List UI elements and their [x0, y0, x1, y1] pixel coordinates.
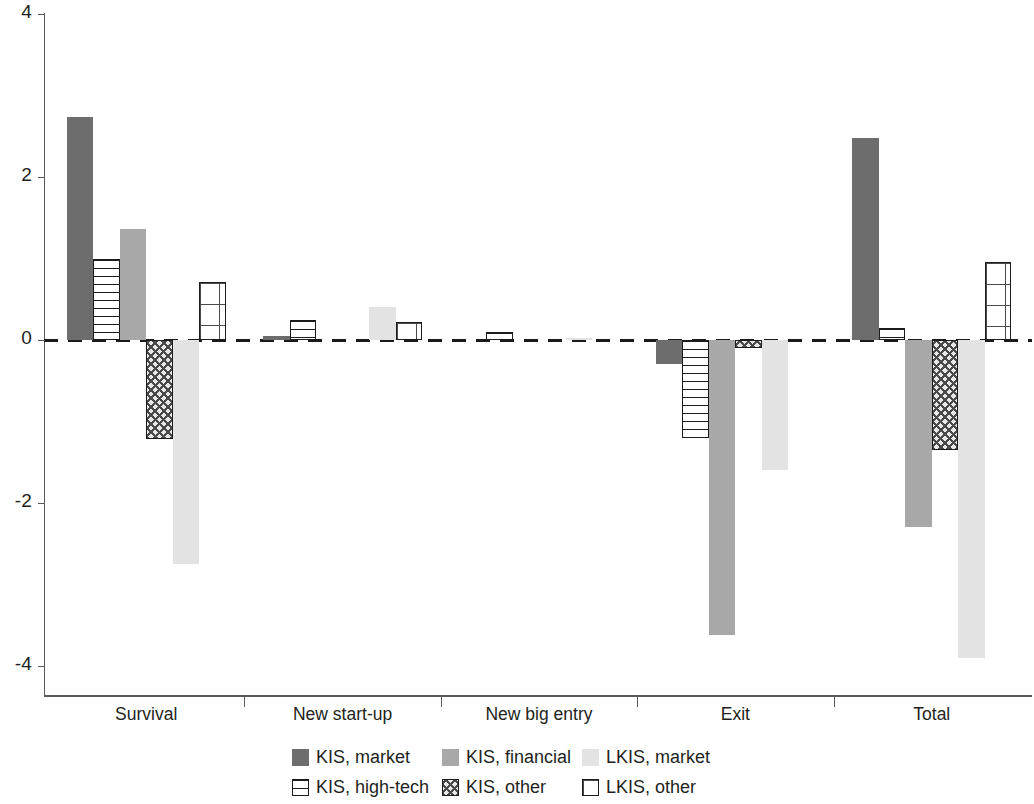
- legend-label: KIS, market: [316, 747, 410, 768]
- legend-label: LKIS, market: [606, 747, 710, 768]
- plot-area: [0, 0, 1034, 695]
- grouped-bar-chart: 420-2-4 SurvivalNew start-upNew big entr…: [0, 0, 1034, 804]
- legend-item-lkis-market[interactable]: LKIS, market: [582, 747, 742, 768]
- legend-label: KIS, other: [466, 777, 546, 798]
- bar-new-start-up-lkis-other: [396, 322, 423, 340]
- bar-survival-kis-high-tech: [93, 259, 120, 341]
- legend-swatch-icon: [292, 749, 309, 766]
- legend-item-kis-other[interactable]: KIS, other: [442, 777, 582, 798]
- legend-label: LKIS, other: [606, 777, 696, 798]
- x-category-label-exit: Exit: [637, 704, 833, 725]
- bar-total-kis-market: [852, 138, 879, 340]
- bar-total-kis-other: [932, 340, 959, 450]
- x-category-label-survival: Survival: [48, 704, 244, 725]
- bar-exit-kis-market: [656, 340, 683, 364]
- bar-exit-kis-financial: [709, 340, 736, 635]
- legend-swatch-icon: [442, 779, 459, 796]
- bar-survival-kis-other: [146, 340, 173, 439]
- bar-total-kis-financial: [905, 340, 932, 527]
- bar-new-start-up-kis-market: [263, 336, 290, 340]
- x-category-label-new-start-up: New start-up: [244, 704, 440, 725]
- bar-survival-lkis-other: [199, 282, 226, 340]
- bar-new-big-entry-lkis-market: [566, 338, 593, 340]
- legend-item-kis-market[interactable]: KIS, market: [292, 747, 442, 768]
- chart-legend: KIS, marketKIS, financialLKIS, marketKIS…: [292, 742, 762, 802]
- legend-label: KIS, high-tech: [316, 777, 429, 798]
- bar-exit-lkis-market: [762, 340, 789, 470]
- legend-label: KIS, financial: [466, 747, 571, 768]
- bar-exit-kis-high-tech: [682, 340, 709, 438]
- x-category-label-total: Total: [834, 704, 1030, 725]
- legend-swatch-icon: [582, 779, 599, 796]
- bar-new-start-up-lkis-market: [369, 307, 396, 340]
- legend-item-lkis-other[interactable]: LKIS, other: [582, 777, 742, 798]
- bar-survival-kis-market: [67, 117, 94, 340]
- bar-total-kis-high-tech: [879, 328, 906, 340]
- bar-survival-lkis-market: [173, 340, 200, 564]
- legend-swatch-icon: [292, 779, 309, 796]
- legend-item-kis-financial[interactable]: KIS, financial: [442, 747, 582, 768]
- bar-exit-kis-other: [735, 340, 762, 348]
- legend-swatch-icon: [582, 749, 599, 766]
- x-category-label-new-big-entry: New big entry: [441, 704, 637, 725]
- bar-survival-kis-financial: [120, 229, 147, 340]
- x-axis-line: [44, 695, 1032, 697]
- bar-new-big-entry-kis-high-tech: [486, 332, 513, 340]
- bar-total-lkis-other: [985, 262, 1012, 340]
- legend-swatch-icon: [442, 749, 459, 766]
- bar-new-start-up-kis-high-tech: [290, 320, 317, 340]
- legend-item-kis-high-tech[interactable]: KIS, high-tech: [292, 777, 442, 798]
- bar-total-lkis-market: [958, 340, 985, 658]
